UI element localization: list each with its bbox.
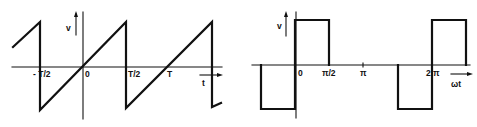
x-axis-label: t <box>202 78 205 88</box>
waveform-diagram: v t - T/2 0 T/2 T v ωt 0 π/2 π 2 π <box>0 0 477 127</box>
x-axis-label: ωt <box>451 79 461 89</box>
tick-label: 2 π <box>426 68 440 78</box>
arrow-head-icon <box>467 72 473 76</box>
sawtooth-wave <box>13 22 221 110</box>
tick-label: T <box>167 69 173 79</box>
arrow-head-icon <box>217 73 223 77</box>
sawtooth-plot: v t - T/2 0 T/2 T <box>12 11 223 119</box>
y-axis-label: v <box>66 23 71 33</box>
square-plot: v ωt 0 π/2 π 2 π <box>252 11 473 118</box>
tick-label: π/2 <box>322 68 336 78</box>
tick-label: 0 <box>298 68 303 78</box>
tick-label: π <box>360 68 367 78</box>
tick-label: - T/2 <box>33 69 51 79</box>
tick-label: T/2 <box>128 69 141 79</box>
y-axis-label: v <box>277 21 282 31</box>
arrow-head-icon <box>284 11 288 17</box>
tick-label: 0 <box>85 69 90 79</box>
arrow-head-icon <box>74 11 78 17</box>
